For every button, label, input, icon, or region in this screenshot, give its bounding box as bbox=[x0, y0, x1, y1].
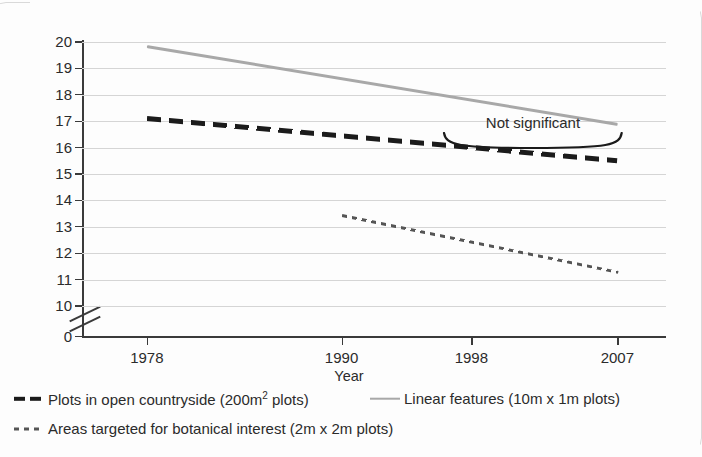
x-axis-line bbox=[82, 336, 666, 338]
frame-mask-right bbox=[674, 0, 700, 457]
x-tick-label: 1998 bbox=[455, 349, 488, 366]
gridline bbox=[82, 95, 666, 96]
x-tick bbox=[342, 337, 343, 345]
y-tick bbox=[75, 305, 82, 306]
legend-label: Linear features (10m x 1m plots) bbox=[404, 390, 620, 407]
gridline bbox=[82, 174, 666, 175]
plot-area: 1011121314151617181920 bbox=[82, 42, 666, 306]
legend-label: Areas targeted for botanical interest (2… bbox=[48, 420, 393, 437]
legend-label: Plots in open countryside (200m2 plots) bbox=[48, 390, 309, 408]
y-tick bbox=[75, 94, 82, 95]
y-tick bbox=[75, 173, 82, 174]
legend-row: Areas targeted for botanical interest (2… bbox=[14, 420, 686, 450]
y-tick-label-zero: 0 bbox=[36, 329, 72, 344]
y-tick bbox=[75, 226, 82, 227]
x-tick-label: 1978 bbox=[130, 349, 163, 366]
gridline bbox=[82, 280, 666, 281]
legend-item[interactable]: Plots in open countryside (200m2 plots) bbox=[14, 390, 309, 408]
y-tick bbox=[75, 68, 82, 69]
gridline bbox=[82, 306, 666, 307]
y-tick bbox=[75, 279, 82, 280]
y-tick-label: 13 bbox=[36, 219, 72, 234]
series-line bbox=[341, 214, 617, 274]
x-tick bbox=[617, 337, 618, 345]
y-tick-label: 15 bbox=[36, 166, 72, 181]
legend-item[interactable]: Linear features (10m x 1m plots) bbox=[370, 390, 620, 407]
gridline bbox=[82, 68, 666, 69]
y-tick-label: 16 bbox=[36, 140, 72, 155]
y-tick-label: 18 bbox=[36, 87, 72, 102]
y-tick-label: 19 bbox=[36, 60, 72, 75]
y-tick bbox=[75, 121, 82, 122]
y-tick-label: 20 bbox=[36, 34, 72, 49]
legend-item[interactable]: Areas targeted for botanical interest (2… bbox=[14, 420, 393, 437]
legend: Plots in open countryside (200m2 plots)L… bbox=[14, 390, 686, 450]
x-tick-label: 2007 bbox=[601, 349, 634, 366]
y-tick-label: 11 bbox=[36, 272, 72, 287]
y-tick bbox=[75, 41, 82, 42]
y-tick bbox=[75, 200, 82, 201]
gridline bbox=[82, 200, 666, 201]
y-tick bbox=[75, 147, 82, 148]
y-tick bbox=[75, 253, 82, 254]
y-tick-label: 12 bbox=[36, 245, 72, 260]
gridline bbox=[82, 253, 666, 254]
x-tick bbox=[471, 337, 472, 345]
x-axis-title: Year bbox=[0, 368, 698, 384]
annotation-brace bbox=[442, 132, 624, 154]
legend-swatch-thick-dashed-icon bbox=[14, 392, 44, 406]
gridline bbox=[82, 227, 666, 228]
frame-mask-top bbox=[30, 0, 698, 6]
y-tick-label: 14 bbox=[36, 192, 72, 207]
x-tick-label: 1990 bbox=[325, 349, 358, 366]
y-tick-label: 10 bbox=[36, 298, 72, 313]
annotation-label: Not significant bbox=[486, 114, 580, 131]
gridline bbox=[82, 42, 666, 43]
legend-row: Plots in open countryside (200m2 plots)L… bbox=[14, 390, 686, 420]
y-tick-label: 17 bbox=[36, 113, 72, 128]
y-axis-break-mark-1 bbox=[69, 306, 100, 323]
legend-swatch-dotted-icon bbox=[14, 422, 44, 436]
y-tick-zero bbox=[75, 336, 82, 337]
x-tick bbox=[147, 337, 148, 345]
legend-swatch-solid-icon bbox=[370, 392, 400, 406]
